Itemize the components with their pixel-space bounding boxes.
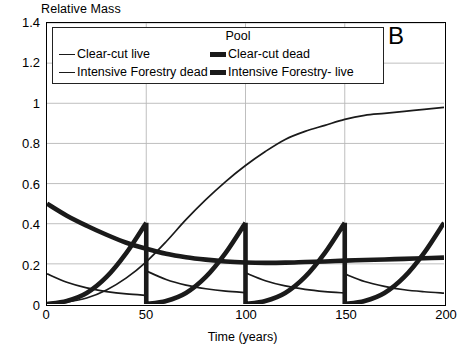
x-tick-label: 50 (139, 307, 153, 322)
x-axis-title: Time (years) (0, 330, 459, 344)
legend-line-icon (210, 52, 226, 57)
y-axis-tick-labels: 1.4 1.2 1 0.8 0.6 0.4 0.2 0 (0, 0, 40, 355)
legend-line-icon (59, 72, 75, 74)
x-tick-label: 0 (42, 307, 49, 322)
x-tick-label: 100 (235, 307, 257, 322)
legend-item-label: Intensive Forestry- live (228, 66, 354, 79)
legend-item-clear-cut-live: Clear-cut live (59, 48, 150, 61)
y-tick-label: 0.4 (2, 217, 40, 232)
x-tick-label: 150 (335, 307, 357, 322)
x-tick-label: 200 (435, 307, 457, 322)
panel-label: B (388, 22, 405, 50)
legend: Pool Clear-cut live Clear-cut dead Inten… (52, 27, 384, 84)
y-tick-label: 1.2 (2, 55, 40, 70)
legend-title: Pool (53, 29, 383, 43)
legend-line-icon (59, 54, 75, 56)
y-tick-label: 0.8 (2, 136, 40, 151)
y-tick-label: 0.6 (2, 176, 40, 191)
legend-title-text: Pool (225, 29, 250, 43)
legend-item-clear-cut-dead: Clear-cut dead (210, 48, 310, 61)
y-tick-label: 1 (2, 95, 40, 110)
y-tick-label: 0.2 (2, 257, 40, 272)
y-axis-title: Relative Mass (41, 2, 121, 16)
x-axis-title-text: Time (years) (208, 330, 278, 344)
legend-line-icon (210, 70, 226, 75)
legend-item-label: Intensive Forestry dead (77, 66, 208, 79)
legend-item-label: Clear-cut dead (228, 48, 310, 61)
legend-item-intensive-forestry-live: Intensive Forestry- live (210, 66, 354, 79)
chart-figure: Relative Mass 1.4 1.2 1 0.8 0.6 0.4 0.2 … (0, 0, 459, 355)
legend-item-label: Clear-cut live (77, 48, 150, 61)
y-tick-label: 0 (2, 298, 40, 313)
y-tick-label: 1.4 (2, 15, 40, 30)
legend-item-intensive-forestry-dead: Intensive Forestry dead (59, 66, 208, 79)
